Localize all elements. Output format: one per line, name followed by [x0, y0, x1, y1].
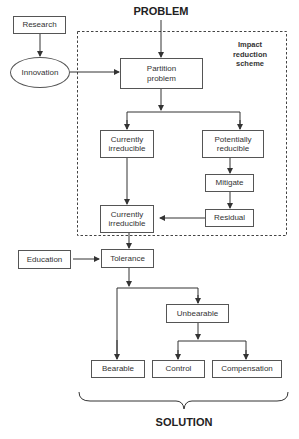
potentially-reducible-node: Potentially reducible — [202, 130, 264, 158]
currently-irreducible-2-node: Currently irreducible — [100, 205, 154, 233]
innovation-node: Innovation — [10, 57, 70, 88]
solution-label: SOLUTION — [144, 416, 224, 428]
education-node: Education — [18, 250, 71, 269]
bearable-node: Bearable — [91, 360, 145, 378]
problem-label: PROBLEM — [121, 5, 201, 17]
impact-reduction-scheme-label: Impact reduction scheme — [228, 40, 272, 69]
solution-brace — [79, 392, 288, 409]
compensation-node: Compensation — [212, 360, 282, 378]
research-node: Research — [13, 16, 66, 34]
control-node: Control — [152, 360, 205, 378]
tolerance-node: Tolerance — [101, 249, 154, 268]
partition-problem-node: Partition problem — [120, 58, 203, 89]
residual-node: Residual — [205, 209, 254, 227]
unbearable-node: Unbearable — [166, 304, 229, 323]
mitigate-node: Mitigate — [205, 174, 254, 192]
currently-irreducible-node: Currently irreducible — [100, 130, 154, 158]
